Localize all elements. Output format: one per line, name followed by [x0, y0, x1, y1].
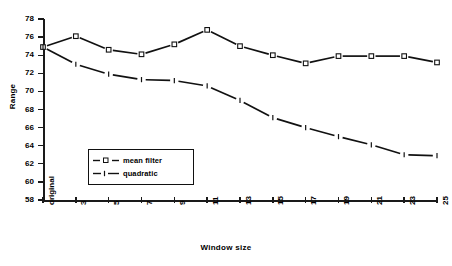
- series-mean-filter: [41, 28, 440, 66]
- data-point-marker: [106, 47, 111, 52]
- data-point-marker: [172, 42, 177, 47]
- series-segment: [244, 102, 269, 115]
- series-segment: [310, 129, 335, 136]
- series-segment: [211, 32, 236, 45]
- data-point-marker: [303, 61, 308, 66]
- series-segment: [408, 155, 432, 156]
- data-point-marker: [271, 53, 276, 58]
- series-segment: [244, 47, 269, 54]
- series-segment: [113, 50, 138, 53]
- series-segment: [47, 38, 72, 46]
- data-point-marker: [74, 34, 79, 39]
- series-segment: [408, 57, 433, 62]
- legend-swatch-open-square-icon: [93, 156, 119, 165]
- series-segment: [80, 65, 105, 73]
- chart-container: Range 5860626466687072747678 original357…: [0, 0, 452, 266]
- series-plot: [0, 0, 452, 266]
- legend-label-quadratic: quadratic: [123, 169, 158, 178]
- series-segment: [146, 46, 171, 54]
- data-point-marker: [402, 54, 407, 59]
- data-point-marker: [369, 54, 374, 59]
- series-segment: [146, 80, 170, 81]
- series-segment: [277, 56, 302, 62]
- series-segment: [343, 138, 368, 144]
- series-segment: [277, 119, 302, 127]
- series-segment: [211, 88, 236, 99]
- series-segment: [310, 57, 335, 62]
- legend-label-mean-filter: mean filter: [123, 156, 162, 165]
- x-axis-title: Window size: [0, 243, 452, 252]
- data-point-marker: [139, 52, 144, 57]
- series-segment: [178, 32, 203, 43]
- legend-item-mean-filter: mean filter: [93, 154, 188, 167]
- data-point-marker: [238, 44, 243, 49]
- data-point-marker: [336, 54, 341, 59]
- series-segment: [47, 49, 72, 62]
- series-segment: [178, 81, 203, 85]
- series-quadratic: [43, 44, 437, 158]
- series-segment: [113, 75, 138, 79]
- data-point-marker: [205, 28, 210, 33]
- legend-item-quadratic: quadratic: [93, 167, 188, 180]
- series-segment: [375, 146, 400, 154]
- chart-legend: mean filter quadratic: [88, 149, 194, 185]
- data-point-marker: [435, 60, 440, 65]
- legend-swatch-dash-icon: [93, 169, 119, 178]
- series-segment: [80, 38, 105, 48]
